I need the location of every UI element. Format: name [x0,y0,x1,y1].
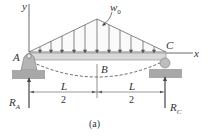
y-axis-label: y [22,1,27,12]
ground-c [149,69,182,78]
load-subscript: 0 [117,8,121,16]
dim-arrow-right [160,91,164,94]
reaction-c-symbol: R [170,101,177,113]
point-c-label: C [166,40,173,51]
reaction-c-label: RC [170,102,181,116]
reaction-c-subscript: C [177,108,182,116]
load-label: w0 [110,2,121,16]
figure-caption: (a) [89,119,100,129]
reaction-a-subscript: A [16,103,20,111]
x-axis-label: x [194,48,199,59]
point-a-label: A [13,52,20,63]
dim-left-numerator: L [61,81,67,92]
roller-support-c [160,58,170,68]
reaction-a-label: RA [9,97,20,111]
dim-right-numerator: L [129,81,135,92]
pin-a [27,54,31,58]
dim-arrow-mid-right [98,91,102,94]
dim-left-denominator: 2 [61,95,66,105]
reaction-a-symbol: R [9,96,16,108]
dim-right-denominator: 2 [129,95,134,105]
ground-a [12,70,45,79]
distributed-load-triangle [29,19,166,52]
point-b-label: B [101,64,108,75]
dim-arrow-left [30,91,34,94]
beam [29,53,166,60]
dim-arrow-mid-left [92,91,96,94]
